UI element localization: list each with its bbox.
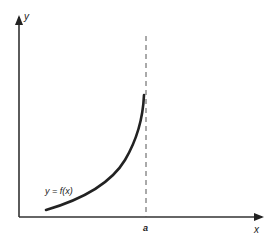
asymptote-label: a [143, 223, 148, 233]
function-graph: y x a y = f(x) [0, 0, 275, 236]
y-axis-label: y [23, 11, 30, 22]
x-axis-label: x [253, 224, 260, 235]
curve-label: y = f(x) [44, 186, 73, 196]
